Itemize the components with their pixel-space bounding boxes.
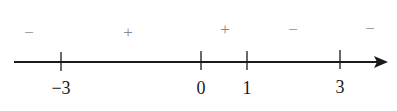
- number-line-diagram: −3 0 1 3 − + + − −: [0, 0, 397, 111]
- tick-label-3: 3: [336, 77, 345, 97]
- ticks: [61, 50, 340, 71]
- tick-labels: −3 0 1 3: [51, 77, 344, 98]
- tick-label-1: 1: [243, 78, 252, 98]
- tick-label-neg3: −3: [51, 78, 70, 98]
- sign-interval-4: −: [288, 20, 298, 39]
- sign-interval-3: +: [220, 20, 230, 39]
- tick-label-0: 0: [197, 78, 206, 98]
- sign-interval-1: −: [24, 23, 34, 42]
- sign-interval-2: +: [123, 23, 133, 42]
- sign-markers: − + + − −: [24, 19, 375, 42]
- sign-interval-5: −: [365, 19, 375, 38]
